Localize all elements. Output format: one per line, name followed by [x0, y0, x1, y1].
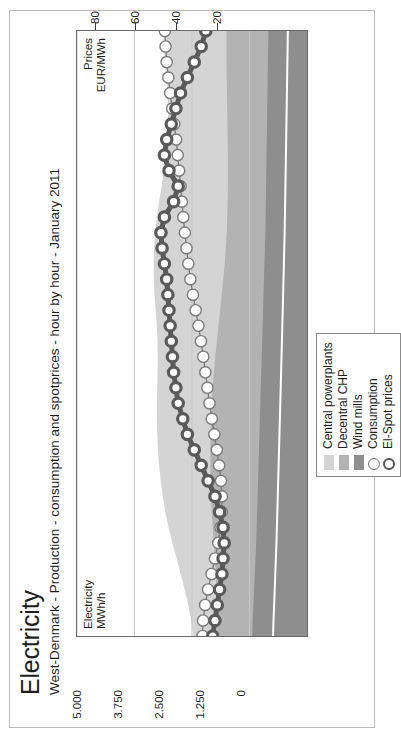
marker-spot-price	[157, 243, 167, 253]
marker-consumption	[161, 56, 172, 67]
axis-label-left: Electricity MWh/h	[81, 577, 109, 632]
rotated-chart-stage: Electricity West-Denmark - Production - …	[10, 11, 376, 709]
marker-consumption	[197, 615, 208, 626]
marker-consumption	[185, 274, 196, 285]
outer-border: Electricity West-Denmark - Production - …	[9, 10, 375, 728]
marker-spot-price	[167, 352, 177, 362]
chart-svg	[77, 31, 307, 636]
axis-label-left-line1: Electricity	[82, 580, 95, 629]
marker-spot-price	[156, 227, 166, 237]
marker-spot-price	[166, 119, 176, 129]
marker-consumption	[203, 584, 214, 595]
marker-consumption	[214, 460, 225, 471]
legend-label-2: Wind mills	[352, 342, 365, 449]
marker-spot-price	[171, 103, 181, 113]
y2-tick-label: 20	[211, 0, 223, 24]
plot-canvas	[77, 31, 307, 636]
marker-spot-price	[168, 367, 178, 377]
axis-label-right-line2: EUR/MWh	[95, 38, 108, 92]
marker-spot-price	[189, 445, 199, 455]
marker-spot-price	[171, 383, 181, 393]
marker-spot-price	[182, 429, 192, 439]
marker-spot-price	[218, 553, 228, 563]
marker-spot-price	[166, 336, 176, 346]
circle-open-icon	[368, 458, 380, 470]
chart-header: Electricity West-Denmark - Production - …	[16, 168, 64, 695]
marker-spot-price	[159, 212, 169, 222]
marker-spot-price	[178, 414, 188, 424]
marker-spot-price	[219, 538, 229, 548]
area-swatch-icon	[339, 455, 349, 470]
legend-swatch-1	[337, 455, 350, 470]
marker-spot-price	[208, 631, 218, 636]
marker-consumption	[178, 212, 189, 223]
legend-label-3: Consumption	[367, 342, 380, 449]
marker-spot-price	[182, 72, 192, 82]
marker-spot-price	[218, 522, 228, 532]
plot-frame: Electricity MWh/h Prices EUR/MWh	[76, 30, 308, 637]
page-subtitle: West-Denmark - Production - consumption …	[46, 168, 64, 695]
marker-spot-price	[217, 569, 227, 579]
y-tick-label: 1.250	[194, 690, 206, 739]
marker-consumption	[215, 475, 226, 486]
y-tick-label: 3.750	[112, 690, 124, 739]
marker-spot-price	[164, 305, 174, 315]
marker-spot-price	[159, 258, 169, 268]
marker-consumption	[179, 227, 190, 238]
y2-tick-label: 60	[129, 0, 141, 24]
legend-swatch-0	[322, 455, 335, 470]
y-tick-label: 0	[235, 690, 247, 739]
marker-spot-price	[212, 600, 222, 610]
marker-consumption	[187, 289, 198, 300]
marker-consumption	[206, 413, 217, 424]
legend-label-1: Decentral CHP	[337, 342, 350, 449]
marker-consumption	[183, 258, 194, 269]
area-swatch-icon	[324, 455, 334, 470]
marker-consumption	[190, 305, 201, 316]
axis-label-right-line1: Prices	[82, 38, 95, 92]
marker-consumption	[200, 599, 211, 610]
marker-spot-price	[163, 290, 173, 300]
marker-consumption	[195, 336, 206, 347]
marker-spot-price	[159, 150, 169, 160]
legend-swatch-2	[352, 455, 365, 470]
marker-consumption	[209, 429, 220, 440]
circle-bold-icon	[383, 458, 395, 470]
marker-spot-price	[173, 181, 183, 191]
axis-label-left-line2: MWh/h	[95, 580, 108, 629]
area-swatch-icon	[354, 455, 364, 470]
marker-spot-price	[210, 491, 220, 501]
marker-spot-price	[214, 584, 224, 594]
marker-spot-price	[162, 274, 172, 284]
marker-spot-price	[214, 507, 224, 517]
marker-spot-price	[189, 57, 199, 67]
marker-spot-price	[165, 321, 175, 331]
legend-label-0: Central powerplants	[322, 342, 335, 449]
marker-consumption	[172, 150, 183, 161]
marker-consumption	[211, 444, 222, 455]
y-tick-label: 2.500	[153, 690, 165, 739]
marker-consumption	[163, 72, 174, 83]
legend-swatch-3	[367, 455, 380, 470]
axis-label-right: Prices EUR/MWh	[81, 35, 109, 95]
legend-grid: Central powerplantsDecentral CHPWind mil…	[322, 342, 395, 470]
y2-tick-label: 80	[89, 0, 101, 24]
marker-consumption	[193, 320, 204, 331]
marker-consumption	[204, 398, 215, 409]
legend-swatch-4	[382, 455, 395, 470]
page-title: Electricity	[16, 168, 45, 695]
y2-tick-label: 40	[170, 0, 182, 24]
y-tick-label: 5.000	[71, 690, 83, 739]
legend: Central powerplantsDecentral CHPWind mil…	[316, 333, 401, 477]
marker-consumption	[198, 351, 209, 362]
marker-spot-price	[162, 134, 172, 144]
marker-spot-price	[201, 31, 211, 36]
marker-consumption	[202, 382, 213, 393]
marker-consumption	[181, 243, 192, 254]
marker-consumption	[200, 367, 211, 378]
marker-spot-price	[175, 88, 185, 98]
marker-consumption	[159, 31, 170, 37]
marker-spot-price	[164, 165, 174, 175]
marker-spot-price	[196, 460, 206, 470]
